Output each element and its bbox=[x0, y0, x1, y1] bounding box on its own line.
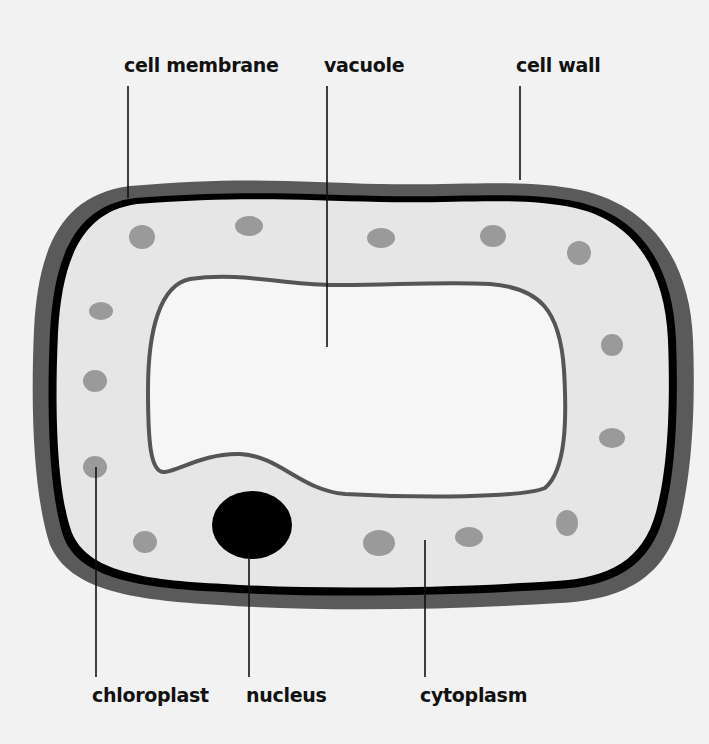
chloroplast-13 bbox=[455, 527, 483, 547]
plant-cell-diagram bbox=[0, 0, 709, 744]
label-cytoplasm: cytoplasm bbox=[420, 686, 527, 705]
chloroplast-6 bbox=[89, 302, 113, 320]
chloroplast-9 bbox=[601, 334, 623, 356]
chloroplast-2 bbox=[235, 216, 263, 236]
label-chloroplast: chloroplast bbox=[92, 686, 209, 705]
chloroplast-5 bbox=[567, 241, 591, 265]
chloroplast-7 bbox=[83, 370, 107, 392]
chloroplast-14 bbox=[556, 510, 578, 536]
nucleus bbox=[212, 491, 292, 559]
label-vacuole: vacuole bbox=[324, 56, 404, 75]
label-nucleus: nucleus bbox=[246, 686, 326, 705]
label-cell-membrane: cell membrane bbox=[124, 56, 279, 75]
chloroplast-12 bbox=[363, 530, 395, 556]
chloroplast-8 bbox=[83, 456, 107, 478]
chloroplast-11 bbox=[133, 531, 157, 553]
chloroplast-3 bbox=[367, 228, 395, 248]
chloroplast-1 bbox=[129, 225, 155, 249]
chloroplast-4 bbox=[480, 225, 506, 247]
chloroplast-10 bbox=[599, 428, 625, 448]
label-cell-wall: cell wall bbox=[516, 56, 601, 75]
